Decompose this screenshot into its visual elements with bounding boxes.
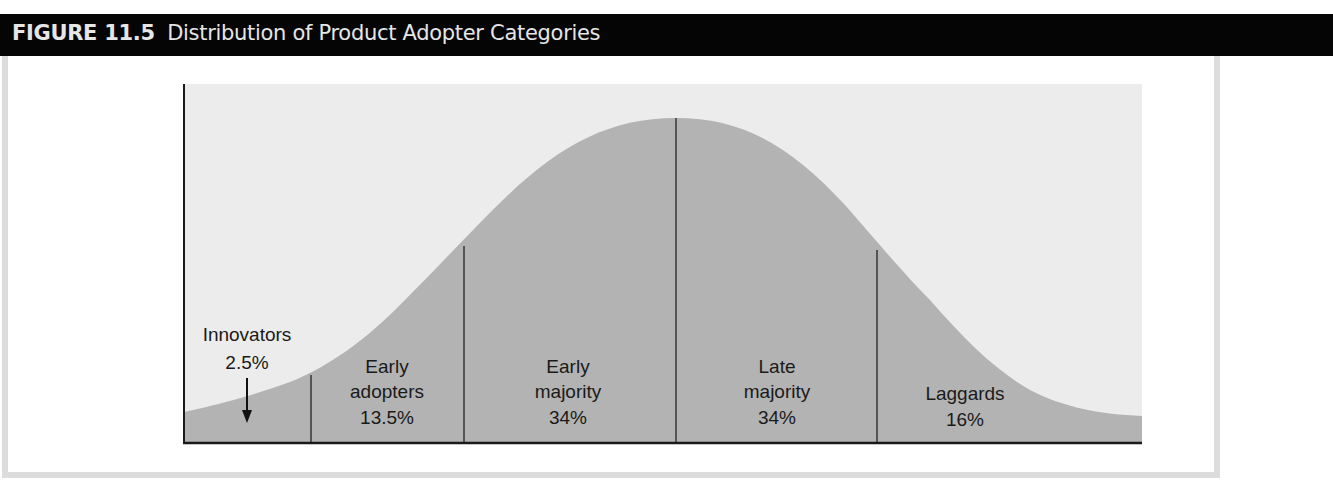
- early-adopters-label-line1: Early: [365, 356, 409, 377]
- innovators-label: Innovators: [203, 324, 292, 345]
- laggards-value: 16%: [946, 409, 984, 430]
- late-majority-label-line1: Late: [759, 356, 796, 377]
- early-majority-value: 34%: [549, 407, 587, 428]
- laggards-label: Laggards: [925, 383, 1004, 404]
- late-majority-label-line2: majority: [744, 381, 811, 402]
- early-majority-label-line1: Early: [546, 356, 590, 377]
- early-majority-label-line2: majority: [535, 381, 602, 402]
- early-adopters-value: 13.5%: [360, 407, 414, 428]
- bell-curve-chart: Innovators 2.5% Early adopters 13.5% Ear…: [0, 0, 1333, 488]
- innovators-value: 2.5%: [225, 352, 268, 373]
- late-majority-value: 34%: [758, 407, 796, 428]
- early-adopters-label-line2: adopters: [350, 381, 424, 402]
